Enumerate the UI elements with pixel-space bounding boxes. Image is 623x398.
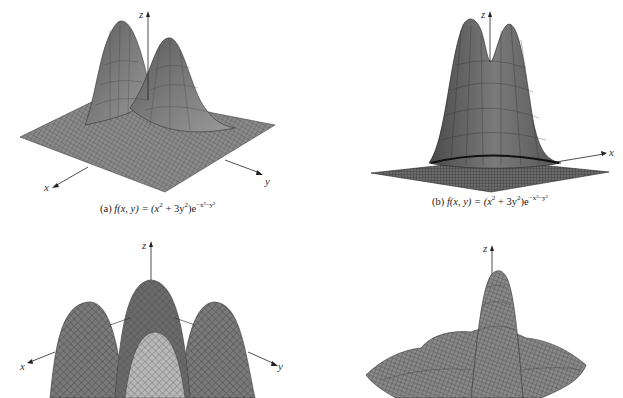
panel-b-surface: z x (311, 0, 623, 200)
z-axis-label: z (481, 8, 485, 20)
panel-a-surface: z x y (0, 0, 311, 200)
y-axis-label: y (278, 360, 283, 372)
caption-b: (b) f(x, y) = (x2 + 3y2)e−x²−y² (432, 196, 548, 207)
z-axis-label: z (139, 8, 143, 20)
x-axis-label: x (44, 181, 49, 193)
y-axis-label: y (265, 175, 270, 187)
panel-c-surface: z x y (0, 230, 311, 398)
z-axis-label: z (483, 242, 487, 254)
caption-a: (a) f(x, y) = (x2 + 3y2)e−x²−y² (100, 203, 215, 214)
panel-d-surface: z (311, 230, 623, 398)
z-axis-label: z (142, 239, 146, 251)
x-axis-label: x (609, 146, 614, 158)
x-axis-label: x (20, 360, 25, 372)
